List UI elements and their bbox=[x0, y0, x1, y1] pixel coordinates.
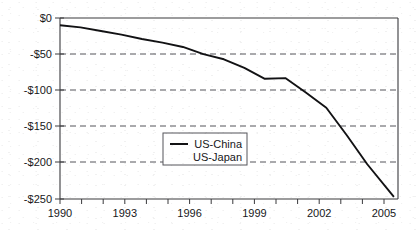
x-label-1990: 1990 bbox=[48, 207, 72, 219]
y-label-minus-200: -$200 bbox=[24, 156, 52, 168]
plot-area-background bbox=[60, 18, 398, 199]
y-label-minus-150: -$150 bbox=[24, 120, 52, 132]
x-label-2005: 2005 bbox=[372, 207, 396, 219]
x-label-1999: 1999 bbox=[242, 207, 266, 219]
y-label-minus-50: -$50 bbox=[30, 48, 52, 60]
y-label-minus-250: -$250 bbox=[24, 193, 52, 205]
legend-label-us-japan: US-Japan bbox=[193, 151, 242, 163]
x-label-1993: 1993 bbox=[113, 207, 137, 219]
x-axis-labels: 1990 1993 1996 1999 2002 2005 bbox=[48, 207, 396, 219]
x-label-2002: 2002 bbox=[307, 207, 331, 219]
x-axis-ticks bbox=[60, 199, 384, 204]
chart-container: $0 -$50 -$100 -$150 -$200 -$250 bbox=[0, 0, 418, 236]
x-label-1996: 1996 bbox=[177, 207, 201, 219]
line-chart: $0 -$50 -$100 -$150 -$200 -$250 bbox=[0, 0, 418, 236]
y-label-0: $0 bbox=[40, 12, 52, 24]
chart-legend[interactable]: US-China US-Japan bbox=[163, 133, 247, 165]
legend-label-us-china: US-China bbox=[194, 138, 243, 150]
y-label-minus-100: -$100 bbox=[24, 84, 52, 96]
y-axis-labels: $0 -$50 -$100 -$150 -$200 -$250 bbox=[24, 12, 52, 205]
